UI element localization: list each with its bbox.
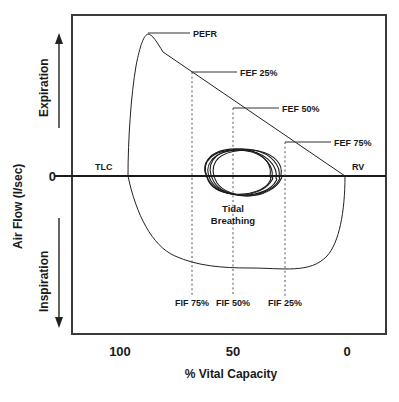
label-fif25: FIF 25%	[268, 298, 302, 308]
chart-svg: Expiration Inspiration Air Flow (l/sec) …	[0, 0, 399, 402]
expiration-label: Expiration	[37, 58, 51, 117]
inspiration-arrow	[55, 218, 63, 328]
label-fef75: FEF 75%	[334, 138, 372, 148]
flow-volume-loop-figure: Expiration Inspiration Air Flow (l/sec) …	[0, 0, 399, 402]
label-pefr: PEFR	[193, 29, 218, 39]
label-rv: RV	[352, 162, 364, 172]
y-axis-title: Air Flow (l/sec)	[11, 164, 25, 249]
y-tick-zero: 0	[49, 169, 56, 184]
label-fef50: FEF 50%	[282, 104, 320, 114]
label-tidal-line1: Tidal	[222, 203, 244, 214]
label-fif75: FIF 75%	[175, 298, 209, 308]
expiration-arrow	[55, 33, 63, 128]
label-tidal-line2: Breathing	[211, 215, 256, 226]
plot-frame	[72, 15, 386, 334]
label-fef25: FEF 25%	[240, 68, 278, 78]
label-tlc: TLC	[95, 162, 113, 172]
x-tick-0: 0	[343, 344, 350, 359]
x-axis-title: % Vital Capacity	[185, 367, 278, 381]
label-fif50: FIF 50%	[216, 298, 250, 308]
x-tick-100: 100	[109, 344, 131, 359]
x-tick-50: 50	[226, 344, 240, 359]
inspiration-label: Inspiration	[37, 251, 51, 312]
tidal-breathing-loops	[205, 149, 282, 196]
